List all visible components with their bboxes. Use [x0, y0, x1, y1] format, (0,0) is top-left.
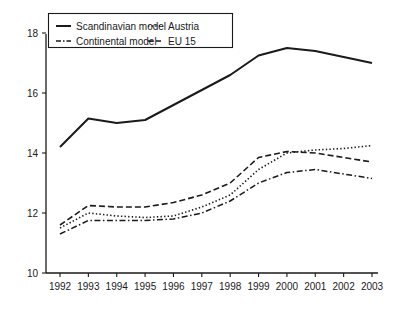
y-tick-label: 18: [27, 28, 39, 39]
series-line-scandinavian-model: [60, 48, 372, 147]
x-axis-ticks: 1992199319941995199619971998199920002001…: [49, 273, 384, 292]
series-line-austria: [60, 146, 372, 229]
x-tick-label: 1997: [191, 281, 214, 292]
legend-label-eu-15: EU 15: [168, 36, 196, 47]
legend-label-continental-model: Continental model: [76, 36, 157, 47]
x-tick-label: 1999: [247, 281, 270, 292]
chart-container: 1012141618 19921993199419951996199719981…: [0, 0, 396, 314]
x-tick-label: 1993: [77, 281, 100, 292]
y-tick-label: 14: [27, 148, 39, 159]
x-tick-label: 2001: [304, 281, 327, 292]
x-tick-label: 2000: [276, 281, 299, 292]
x-tick-label: 2003: [361, 281, 384, 292]
data-series-group: [60, 48, 372, 234]
axes: [46, 34, 378, 273]
y-tick-label: 12: [27, 208, 39, 219]
x-tick-label: 1992: [49, 281, 72, 292]
y-tick-label: 10: [27, 268, 39, 279]
x-tick-label: 1995: [134, 281, 157, 292]
series-line-eu-15: [60, 152, 372, 226]
y-axis-ticks: 1012141618: [27, 28, 46, 279]
line-chart: 1012141618 19921993199419951996199719981…: [0, 0, 396, 314]
y-tick-label: 16: [27, 88, 39, 99]
x-tick-label: 1996: [162, 281, 185, 292]
x-tick-label: 2002: [333, 281, 356, 292]
x-tick-label: 1998: [219, 281, 242, 292]
x-tick-label: 1994: [106, 281, 129, 292]
legend: Scandinavian modelContinental modelAustr…: [49, 14, 233, 48]
legend-label-austria: Austria: [168, 21, 200, 32]
